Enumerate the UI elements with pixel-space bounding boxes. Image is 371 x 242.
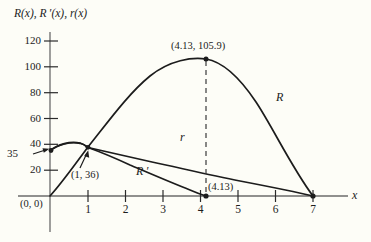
y-axis-title: R(x), R ′(x), r(x)	[14, 8, 87, 20]
curve-label-R-prime: R ′	[136, 165, 148, 177]
marker-intersection	[86, 145, 91, 150]
maximum-label: (4.13, 105.9)	[171, 41, 225, 52]
x-tick-label-3: 3	[153, 204, 173, 216]
curve-label-r: r	[180, 131, 185, 143]
marker-maximum	[204, 57, 209, 62]
x-tick-label-2: 2	[116, 204, 136, 216]
marker-x-intercept-7	[310, 193, 315, 198]
y-value-35-label: 35	[7, 148, 18, 159]
arrow-35-annotation	[33, 148, 50, 154]
y-tick-label-20: 20	[14, 164, 41, 175]
x-tick-label-6: 6	[266, 204, 286, 216]
intersection-label: (1, 36)	[71, 170, 99, 181]
revenue-curves-figure: R(x), R ′(x), r(x) 120 100 80 60 40 20 3…	[0, 0, 371, 242]
x-tick-label-4: 4	[191, 204, 211, 216]
origin-label: (0, 0)	[20, 199, 43, 210]
derivative-zero-label: (4.13)	[208, 182, 233, 193]
marker-derivative-zero	[203, 193, 208, 198]
x-tick-label-7: 7	[303, 204, 323, 216]
y-tick-label-120: 120	[14, 35, 41, 46]
y-tick-label-100: 100	[14, 61, 41, 72]
y-tick-label-80: 80	[14, 87, 41, 98]
y-tick-label-40: 40	[14, 138, 41, 149]
x-axis-title: x	[352, 189, 357, 201]
curve-label-R: R	[276, 91, 283, 103]
y-tick-label-60: 60	[14, 113, 41, 124]
x-tick-label-5: 5	[228, 204, 248, 216]
x-tick-label-1: 1	[78, 204, 98, 216]
